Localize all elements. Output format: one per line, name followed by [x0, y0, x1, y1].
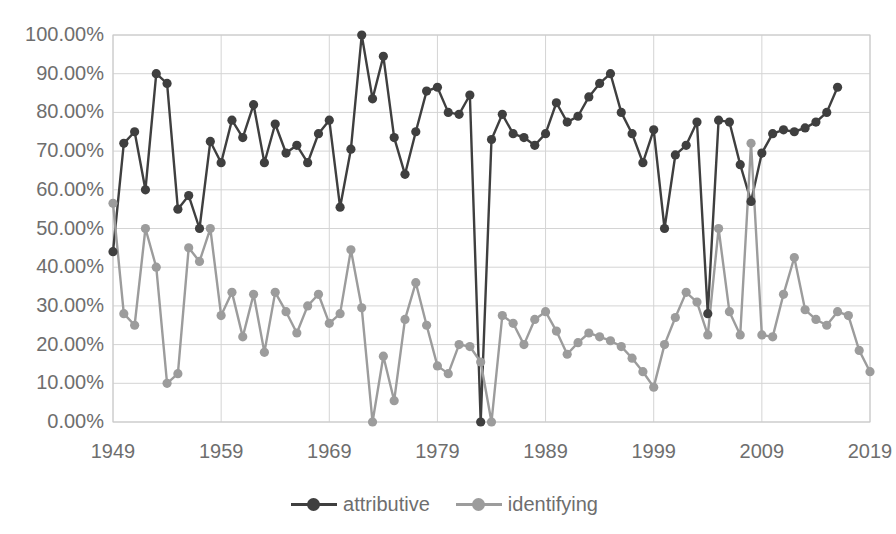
data-point-identifying — [573, 338, 582, 347]
y-axis-tick-label: 80.00% — [4, 101, 104, 121]
data-point-identifying — [801, 305, 810, 314]
data-point-identifying — [790, 253, 799, 262]
data-point-identifying — [530, 315, 539, 324]
data-point-attributive — [584, 92, 593, 101]
legend-dot-icon — [472, 498, 485, 511]
data-point-attributive — [314, 129, 323, 138]
data-point-identifying — [390, 396, 399, 405]
x-axis-tick-label: 1969 — [284, 440, 374, 462]
data-point-identifying — [476, 357, 485, 366]
data-point-attributive — [573, 112, 582, 121]
legend-dot-icon — [307, 498, 320, 511]
data-point-attributive — [714, 116, 723, 125]
data-point-identifying — [444, 369, 453, 378]
data-point-attributive — [822, 108, 831, 117]
data-point-attributive — [768, 129, 777, 138]
data-point-attributive — [519, 133, 528, 142]
data-point-identifying — [422, 321, 431, 330]
data-point-identifying — [249, 290, 258, 299]
data-point-attributive — [498, 110, 507, 119]
data-point-attributive — [249, 100, 258, 109]
data-point-attributive — [238, 133, 247, 142]
data-point-identifying — [411, 278, 420, 287]
data-point-attributive — [152, 69, 161, 78]
data-point-attributive — [660, 224, 669, 233]
data-point-attributive — [141, 185, 150, 194]
data-point-attributive — [617, 108, 626, 117]
data-point-identifying — [692, 297, 701, 306]
data-point-identifying — [725, 307, 734, 316]
data-point-attributive — [638, 158, 647, 167]
data-point-attributive — [292, 141, 301, 150]
data-point-identifying — [433, 361, 442, 370]
data-point-identifying — [271, 288, 280, 297]
data-point-attributive — [444, 108, 453, 117]
data-point-identifying — [811, 315, 820, 324]
data-point-identifying — [336, 309, 345, 318]
x-axis-tick-label: 1979 — [392, 440, 482, 462]
data-point-identifying — [119, 309, 128, 318]
data-point-attributive — [671, 150, 680, 159]
data-point-attributive — [119, 139, 128, 148]
data-point-attributive — [411, 127, 420, 136]
y-axis-tick-label: 50.00% — [4, 218, 104, 238]
data-point-attributive — [563, 117, 572, 126]
legend-entry-identifying[interactable]: identifying — [456, 493, 598, 516]
data-point-identifying — [141, 224, 150, 233]
data-point-attributive — [325, 116, 334, 125]
data-point-attributive — [746, 197, 755, 206]
legend-entry-attributive[interactable]: attributive — [291, 493, 430, 516]
data-point-attributive — [465, 90, 474, 99]
data-point-attributive — [454, 110, 463, 119]
data-point-attributive — [400, 170, 409, 179]
data-point-attributive — [811, 117, 820, 126]
x-axis-tick-label: 1999 — [609, 440, 699, 462]
legend-marker-icon — [291, 496, 337, 512]
data-point-identifying — [757, 330, 766, 339]
y-axis-tick-label: 100.00% — [4, 24, 104, 44]
data-point-attributive — [595, 79, 604, 88]
data-point-identifying — [227, 288, 236, 297]
data-point-identifying — [292, 328, 301, 337]
data-point-attributive — [736, 160, 745, 169]
data-point-attributive — [509, 129, 518, 138]
data-point-identifying — [627, 354, 636, 363]
data-point-attributive — [184, 191, 193, 200]
data-point-attributive — [790, 127, 799, 136]
y-axis-tick-label: 40.00% — [4, 256, 104, 276]
y-axis-tick-label: 60.00% — [4, 179, 104, 199]
data-point-attributive — [692, 117, 701, 126]
data-point-identifying — [346, 245, 355, 254]
data-point-identifying — [768, 332, 777, 341]
y-axis-tick-label: 10.00% — [4, 372, 104, 392]
data-point-identifying — [152, 263, 161, 272]
data-point-attributive — [130, 127, 139, 136]
data-point-attributive — [281, 148, 290, 157]
x-axis-tick-label: 1949 — [68, 440, 158, 462]
data-point-attributive — [801, 123, 810, 132]
data-point-identifying — [217, 311, 226, 320]
data-point-attributive — [162, 79, 171, 88]
data-point-identifying — [660, 340, 669, 349]
data-point-attributive — [476, 417, 485, 426]
data-point-identifying — [541, 307, 550, 316]
data-point-identifying — [195, 257, 204, 266]
data-point-identifying — [682, 288, 691, 297]
data-point-identifying — [357, 303, 366, 312]
data-point-attributive — [606, 69, 615, 78]
data-point-attributive — [649, 125, 658, 134]
data-point-identifying — [844, 311, 853, 320]
data-point-identifying — [184, 243, 193, 252]
data-point-identifying — [595, 332, 604, 341]
data-point-attributive — [725, 117, 734, 126]
data-point-identifying — [649, 383, 658, 392]
data-point-identifying — [108, 199, 117, 208]
data-point-attributive — [206, 137, 215, 146]
data-point-attributive — [195, 224, 204, 233]
data-point-identifying — [865, 367, 874, 376]
data-point-identifying — [400, 315, 409, 324]
data-point-attributive — [779, 125, 788, 134]
data-point-identifying — [519, 340, 528, 349]
data-point-attributive — [108, 247, 117, 256]
